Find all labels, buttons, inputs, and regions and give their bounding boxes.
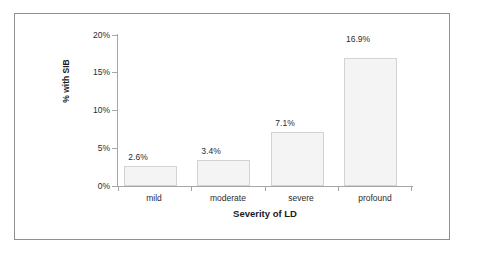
x-category-label-severe: severe <box>261 193 341 203</box>
x-tick-mark-3 <box>338 186 339 191</box>
bar-profound[interactable] <box>344 58 397 186</box>
x-category-label-moderate: moderate <box>188 193 268 203</box>
y-axis-tick-labels: 0% 5% 10% 15% 20% <box>44 0 110 255</box>
y-tick-label-10: 10% <box>50 106 110 115</box>
bar-value-severe: 7.1% <box>245 118 325 128</box>
x-axis-title: Severity of LD <box>118 208 412 219</box>
bar-value-profound: 16.9% <box>318 34 398 44</box>
chart-figure: 0% 5% 10% 15% 20% % with SIB 2.6% 3.4% 7… <box>0 0 478 255</box>
plot-area <box>118 35 412 186</box>
bar-value-mild: 2.6% <box>98 152 178 162</box>
x-category-label-mild: mild <box>114 193 194 203</box>
bar-mild[interactable] <box>124 166 177 186</box>
y-tick-label-20: 20% <box>50 31 110 40</box>
x-tick-mark-0 <box>118 186 119 191</box>
y-axis-title: % with SIB <box>61 36 71 126</box>
x-tick-mark-2 <box>265 186 266 191</box>
y-tick-label-15: 15% <box>50 68 110 77</box>
x-tick-mark-1 <box>191 186 192 191</box>
bar-moderate[interactable] <box>197 160 250 186</box>
x-category-label-profound: profound <box>335 193 415 203</box>
x-tick-mark-4 <box>411 186 412 191</box>
bar-severe[interactable] <box>271 132 324 186</box>
y-tick-label-0: 0% <box>50 182 110 191</box>
bar-value-moderate: 3.4% <box>171 146 251 156</box>
